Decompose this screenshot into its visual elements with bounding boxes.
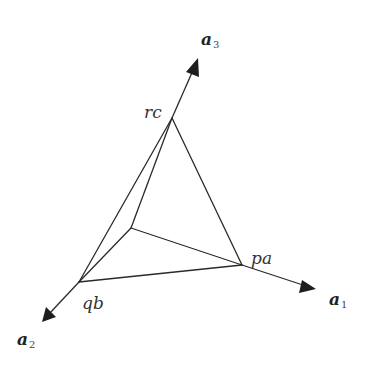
axis-a3-arrowhead-icon [186,58,199,77]
label-rc: rc [144,102,162,122]
edge-rc-pa [172,118,242,265]
axis-a3-hidden-segment [131,118,172,228]
axis-a3 [172,68,194,118]
edge-qb-rc [79,118,172,282]
edge-origin-pa [131,228,242,265]
axis-a1-arrowhead-icon [299,280,316,293]
label-a3: a3 [201,29,219,50]
label-qb: qb [82,293,104,313]
crystal-plane-diagram: a3 rc pa a1 qb a2 [0,0,366,367]
axis-a2 [49,282,79,314]
edge-pa-qb [79,265,242,282]
label-a1: a1 [329,289,347,310]
axis-a1 [242,265,306,286]
label-a2: a2 [17,329,35,350]
label-pa: pa [251,248,272,268]
